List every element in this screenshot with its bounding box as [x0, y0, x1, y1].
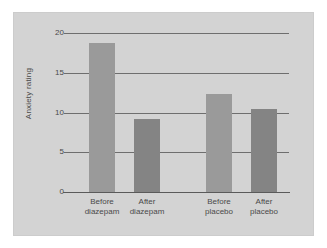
- gridline-20: [76, 33, 289, 34]
- ytick-5: 5: [14, 148, 64, 156]
- ytick-mark-5: [64, 152, 76, 153]
- ytick-mark-10: [64, 113, 76, 114]
- ytick-mark-20: [64, 33, 76, 34]
- x-axis-line: [63, 192, 290, 193]
- ytick-mark-15: [64, 73, 76, 74]
- ytick-10: 10: [14, 109, 64, 117]
- figure: 20 15 10 5 0 Anxiety rating: [0, 0, 327, 248]
- xtick-line1: After: [139, 197, 156, 206]
- ytick-label-20: 20: [18, 29, 64, 37]
- ytick-label-0: 0: [18, 188, 64, 196]
- chart-panel: 20 15 10 5 0 Anxiety rating: [13, 12, 314, 236]
- xtick-line1: Before: [90, 197, 114, 206]
- xtick-line2: diazepam: [119, 207, 175, 217]
- xtick-line1: Before: [207, 197, 231, 206]
- ytick-15: 15: [14, 69, 64, 77]
- xtick-label-after-diazepam: After diazepam: [119, 197, 175, 217]
- bar-before-placebo: [206, 94, 232, 192]
- plot-area: 20 15 10 5 0 Anxiety rating: [14, 13, 315, 237]
- bar-after-placebo: [251, 109, 277, 192]
- ytick-20: 20: [14, 29, 64, 37]
- xtick-line1: After: [256, 197, 273, 206]
- xtick-line2: placebo: [236, 207, 292, 217]
- ytick-label-5: 5: [18, 148, 64, 156]
- xtick-label-after-placebo: After placebo: [236, 197, 292, 217]
- y-axis-label: Anxiety rating: [24, 52, 33, 136]
- bar-after-diazepam: [134, 119, 160, 192]
- bar-before-diazepam: [89, 43, 115, 192]
- ytick-0: 0: [14, 188, 64, 196]
